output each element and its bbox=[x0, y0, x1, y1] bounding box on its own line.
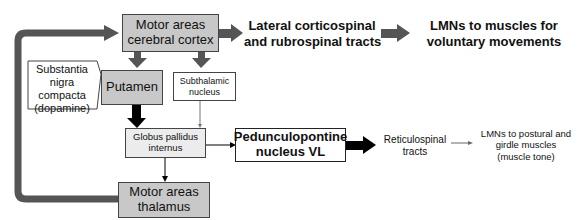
lmn-voluntary-label: LMNs to muscles for voluntary movements bbox=[414, 18, 574, 49]
motor-cortex-box: Motor areas cerebral cortex bbox=[122, 14, 219, 52]
pedunculopontine-box: Pedunculopontine nucleus VL bbox=[235, 128, 346, 162]
lmn-postural-label: LMNs to postural and girdle muscles (mus… bbox=[474, 128, 578, 162]
putamen-box: Putamen bbox=[101, 70, 163, 105]
substantia-nigra-label: Substantia nigra compacta (dopamine) bbox=[26, 63, 98, 115]
lateral-tracts-label: Lateral corticospinal and rubrospinal tr… bbox=[244, 18, 380, 49]
globus-pallidus-box: Globus pallidus internus bbox=[125, 128, 206, 158]
subthalamic-nucleus-box: Subthalamic nucleus bbox=[173, 72, 236, 101]
motor-thalamus-box: Motor areas thalamus bbox=[118, 182, 210, 218]
reticulospinal-label: Reticulospinal tracts bbox=[380, 134, 450, 158]
